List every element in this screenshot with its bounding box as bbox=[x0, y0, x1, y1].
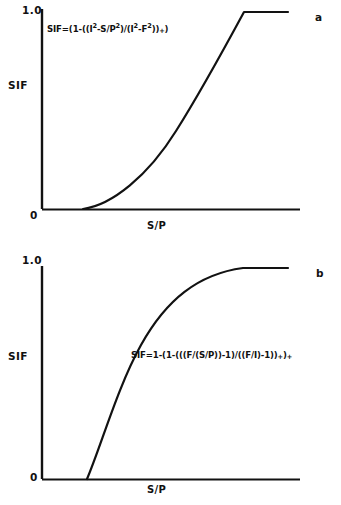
panel-b-y-tick-top: 1.0 bbox=[22, 255, 42, 266]
panel-a-plot bbox=[0, 0, 341, 248]
panel-a-x-axis-label: S/P bbox=[147, 221, 166, 231]
panel-a-formula: SIF=(1-((I2-S/P2)/(I2-F2))+) bbox=[47, 25, 168, 34]
panel-a: 1.0 0 SIF S/P a SIF=(1-((I2-S/P2)/(I2-F2… bbox=[0, 0, 341, 248]
panel-a-curve bbox=[83, 12, 288, 209]
panel-a-y-tick-bottom: 0 bbox=[30, 210, 37, 221]
figure-sif-curves: 1.0 0 SIF S/P a SIF=(1-((I2-S/P2)/(I2-F2… bbox=[0, 0, 341, 505]
panel-b-x-axis-label: S/P bbox=[147, 485, 166, 495]
panel-a-letter: a bbox=[315, 12, 322, 23]
panel-b-y-axis-label: SIF bbox=[8, 351, 28, 362]
panel-a-y-axis-label: SIF bbox=[8, 80, 28, 91]
panel-b-curve bbox=[87, 268, 288, 479]
panel-b-formula: SIF=1-(1-(((F/(S/P))-1)/((F/I)-1))+)+ bbox=[131, 351, 292, 360]
panel-b-letter: b bbox=[316, 268, 324, 279]
panel-b-y-tick-bottom: 0 bbox=[30, 472, 37, 483]
panel-b: 1.0 0 SIF S/P b SIF=1-(1-(((F/(S/P))-1)/… bbox=[0, 250, 341, 505]
panel-b-plot bbox=[0, 250, 341, 505]
panel-a-y-tick-top: 1.0 bbox=[22, 5, 42, 16]
